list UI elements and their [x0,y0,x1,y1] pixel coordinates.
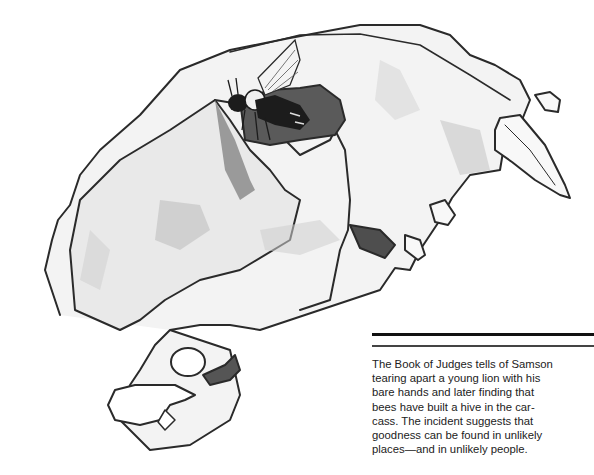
caption-line: bees have built a hive in the car- [372,400,594,414]
caption-line: cass. The incident suggests that [372,414,594,428]
caption-rule-thin [372,345,594,347]
caption-line: goodness can be found in unlikely [372,428,594,442]
caption-rule-thick [372,333,594,336]
caption-line: The Book of Judges tells of Samson [372,357,594,371]
caption-line: places—and in unlikely people. [372,442,594,456]
caption-line: tearing apart a young lion with his [372,371,594,385]
caption-text: The Book of Judges tells of Samson teari… [372,357,594,456]
caption-line: bare hands and later finding that [372,385,594,399]
